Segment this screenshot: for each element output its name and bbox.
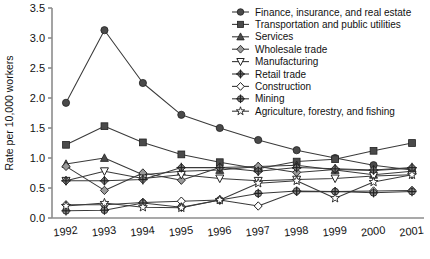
data-point-marker	[255, 136, 262, 143]
legend-label: Mining	[255, 93, 284, 104]
series-line	[66, 191, 412, 211]
legend-item[interactable]: Agriculture, forestry, and fishing	[232, 106, 395, 117]
data-point-marker	[332, 156, 339, 163]
legend-item[interactable]: Mining	[232, 93, 284, 104]
y-tick-label: 3.0	[30, 32, 45, 44]
data-point-marker	[331, 194, 340, 203]
data-point-marker	[100, 154, 108, 162]
data-point-marker	[178, 111, 185, 118]
series-7	[62, 186, 416, 210]
y-tick-label: 2.5	[30, 62, 45, 74]
x-tick-label: 2001	[399, 224, 425, 239]
data-point-marker	[370, 147, 377, 154]
chart-container: 0.00.51.01.52.02.53.03.5Rate per 10,000 …	[0, 0, 430, 259]
legend-item[interactable]: Wholesale trade	[232, 44, 328, 55]
data-point-marker	[293, 147, 300, 154]
x-tick-label: 1993	[91, 224, 117, 239]
series-2	[63, 123, 416, 172]
data-point-marker	[100, 186, 108, 194]
data-point-marker	[237, 21, 243, 27]
legend-item[interactable]: Manufacturing	[232, 56, 318, 67]
series-6	[61, 163, 417, 186]
legend-item[interactable]: Services	[232, 31, 293, 42]
y-tick-label: 1.0	[30, 152, 45, 164]
legend-item[interactable]: Construction	[232, 81, 311, 92]
x-tick-label: 1998	[283, 224, 309, 239]
data-point-marker	[236, 107, 244, 115]
legend-item[interactable]: Retail trade	[232, 69, 307, 80]
series-line	[66, 158, 412, 175]
data-point-marker	[216, 124, 223, 131]
legend-label: Retail trade	[255, 69, 307, 80]
series-4	[62, 162, 416, 194]
legend-label: Wholesale trade	[255, 44, 328, 55]
legend-label: Manufacturing	[255, 56, 318, 67]
data-point-marker	[237, 9, 244, 16]
y-tick-label: 3.5	[30, 2, 45, 14]
data-point-marker	[139, 79, 146, 86]
x-tick-label: 1999	[322, 224, 348, 239]
data-point-marker	[62, 99, 69, 106]
data-point-marker	[237, 45, 244, 53]
y-tick-label: 1.5	[30, 122, 45, 134]
data-point-marker	[62, 201, 71, 210]
y-axis-title: Rate per 10,000 workers	[3, 56, 15, 171]
x-tick-label: 2000	[360, 224, 386, 239]
x-tick-label: 1992	[53, 224, 79, 239]
legend-label: Agriculture, forestry, and fishing	[255, 106, 395, 117]
data-point-marker	[178, 151, 185, 158]
y-tick-label: 0.5	[30, 182, 45, 194]
data-point-marker	[101, 27, 108, 34]
data-point-marker	[237, 83, 244, 91]
legend-label: Finance, insurance, and real estate	[255, 7, 412, 18]
legend-label: Services	[255, 31, 293, 42]
data-point-marker	[215, 195, 224, 204]
legend-item[interactable]: Transportation and public utilities	[232, 19, 401, 30]
data-point-marker	[177, 203, 186, 212]
x-tick-label: 1996	[206, 224, 232, 239]
y-tick-label: 2.0	[30, 92, 45, 104]
data-point-marker	[254, 202, 262, 210]
legend-label: Transportation and public utilities	[255, 19, 401, 30]
legend-label: Construction	[255, 81, 311, 92]
data-point-marker	[101, 123, 108, 130]
y-tick-label: 0.0	[30, 212, 45, 224]
data-point-marker	[139, 139, 146, 146]
x-tick-label: 1994	[130, 224, 156, 239]
x-tick-label: 1997	[245, 224, 271, 239]
line-chart: 0.00.51.01.52.02.53.03.5Rate per 10,000 …	[0, 0, 430, 259]
legend: Finance, insurance, and real estateTrans…	[232, 7, 412, 117]
legend-item[interactable]: Finance, insurance, and real estate	[232, 7, 412, 18]
data-point-marker	[409, 140, 416, 147]
data-point-marker	[63, 141, 70, 148]
x-tick-label: 1995	[168, 224, 194, 239]
